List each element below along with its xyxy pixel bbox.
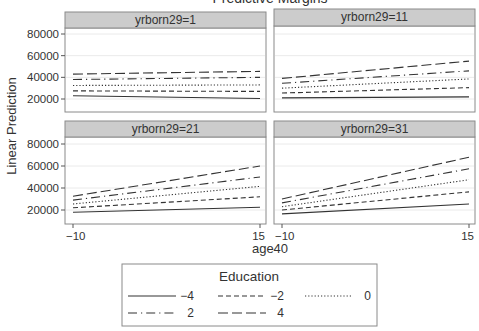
panel-2: yrborn29=11: [274, 9, 475, 112]
strip-label: yrborn29=11: [341, 10, 408, 24]
panel-3: yrborn29=2120000400006000080000−1015: [27, 121, 266, 242]
chart: Predictive Margins yrborn29=120000400006…: [0, 0, 479, 331]
y-tick-label: 40000: [27, 182, 59, 194]
y-tick-label: 60000: [27, 160, 59, 172]
y-axis-title: Linear Prediction: [4, 77, 19, 175]
x-axis-label: age40: [252, 241, 288, 256]
legend-label: 2: [187, 306, 194, 320]
x-tick-label: 15: [461, 230, 474, 242]
strip-label: yrborn29=31: [341, 122, 409, 136]
panel-1: yrborn29=120000400006000080000: [27, 12, 266, 112]
panel-4: yrborn29=31−1015: [274, 121, 475, 242]
legend: Education−4−2024: [122, 264, 377, 326]
legend-label: −4: [180, 289, 194, 303]
x-tick-label: −10: [66, 230, 86, 242]
legend-label: 0: [364, 289, 371, 303]
y-tick-label: 40000: [27, 71, 59, 83]
panel-grid: yrborn29=120000400006000080000yrborn29=1…: [27, 9, 475, 242]
strip-label: yrborn29=21: [132, 122, 200, 136]
x-axis-title: age40: [252, 241, 288, 256]
y-axis-label: Linear Prediction: [4, 77, 19, 175]
y-tick-label: 80000: [27, 28, 59, 40]
y-tick-label: 80000: [27, 138, 59, 150]
y-tick-label: 20000: [27, 204, 59, 216]
y-tick-label: 20000: [27, 93, 59, 105]
chart-title: Predictive Margins: [212, 0, 327, 6]
legend-label: −2: [270, 289, 284, 303]
legend-label: 4: [277, 306, 284, 320]
plot-area: [274, 137, 475, 224]
svg-text:Predictive Margins: Predictive Margins: [212, 0, 327, 6]
y-tick-label: 60000: [27, 50, 59, 62]
legend-title: Education: [219, 269, 279, 284]
strip-label: yrborn29=1: [135, 13, 196, 27]
